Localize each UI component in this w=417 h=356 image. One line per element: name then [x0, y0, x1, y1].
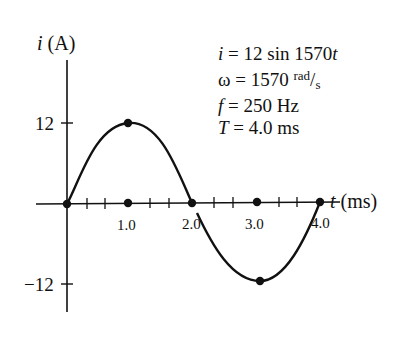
y-tick-label-neg12: −12	[24, 275, 54, 294]
eq-rest-3: = 250 Hz	[223, 95, 299, 116]
x-axis-unit: (ms)	[336, 190, 378, 212]
y-tick-label-12: 12	[35, 114, 54, 133]
x-tick-label-3: 3.0	[245, 217, 264, 232]
eq-unit-rad: rad	[293, 68, 310, 83]
y-axis-unit: (A)	[43, 32, 76, 54]
y-axis-label: i (A)	[37, 33, 75, 53]
x-tick-label-4: 4.0	[311, 216, 330, 231]
equation-current: i = 12 sin 1570t	[218, 43, 337, 65]
eq-rest-4: = 4.0 ms	[229, 117, 300, 138]
eq-var-t: t	[332, 43, 337, 64]
eq-rest-1: = 12 sin 1570	[223, 43, 332, 64]
equation-omega: ω = 1570 rad/s	[218, 65, 337, 96]
x-tick-label-2: 2.0	[182, 217, 201, 232]
eq-unit-s: s	[315, 77, 320, 92]
equation-block: i = 12 sin 1570t ω = 1570 rad/s f = 250 …	[218, 43, 337, 138]
eq-omega: ω = 1570	[218, 69, 293, 90]
eq-var-T: T	[218, 117, 229, 138]
x-tick-label-1: 1.0	[117, 218, 136, 233]
x-axis-label: t (ms)	[330, 191, 377, 211]
equation-period: T = 4.0 ms	[218, 117, 337, 139]
equation-frequency: f = 250 Hz	[218, 95, 337, 117]
